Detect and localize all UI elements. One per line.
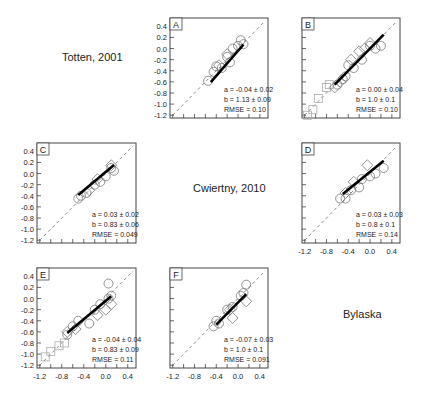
panel-e: 0.40.20.0-0.2-0.4-0.6-0.8-1.0-1.2-1.2-0.… [21, 268, 141, 381]
x-tick-label: -0.4 [342, 247, 355, 256]
y-tick-label: -0.2 [21, 181, 34, 190]
x-tick-label: -1.2 [298, 247, 311, 256]
circle-marker [242, 280, 251, 289]
y-tick-label: 0.2 [157, 33, 167, 42]
y-tick-label: -0.8 [21, 339, 34, 348]
fit-line [335, 35, 384, 85]
fit-stats: b = 1.0 ± 0.1 [224, 346, 263, 353]
y-tick-label: -0.8 [21, 214, 34, 223]
fit-stats: a = -0.07 ± 0.03 [224, 336, 273, 343]
circle-marker [376, 41, 385, 50]
panel-letter: A [173, 20, 179, 30]
scatter-panels: 0.40.20.0-0.2-0.4-0.6-0.8-1.0-1.2Aa = -0… [0, 0, 434, 395]
y-tick-label: -0.6 [21, 203, 34, 212]
y-tick-label: -0.2 [154, 56, 167, 65]
y-tick-label: -1.2 [21, 236, 34, 245]
circle-marker [85, 319, 94, 328]
y-tick-label: -0.4 [154, 67, 167, 76]
panel-letter: E [40, 270, 46, 280]
fit-stats: b = 1.0 ± 0.1 [356, 96, 395, 103]
y-tick-label: -1.0 [21, 350, 34, 359]
x-tick-label: -0.8 [320, 247, 333, 256]
panel-c: 0.40.20.0-0.2-0.4-0.6-0.8-1.0-1.2Ca = 0.… [21, 143, 139, 245]
x-tick-label: 0.4 [123, 372, 133, 381]
fit-stats: a = -0.04 ± 0.04 [92, 336, 141, 343]
x-tick-label: -0.8 [188, 372, 201, 381]
y-tick-label: 0.0 [157, 45, 167, 54]
fit-line [216, 294, 246, 325]
panel-letter: B [305, 20, 311, 30]
fit-stats: a = 0.03 ± 0.02 [92, 211, 139, 218]
panel-a: 0.40.20.0-0.2-0.4-0.6-0.8-1.0-1.2Aa = -0… [154, 18, 273, 120]
y-tick-label: -1.2 [21, 361, 34, 370]
x-tick-label: -0.4 [77, 372, 90, 381]
y-tick-label: 0.4 [24, 272, 34, 281]
diamond-marker [362, 160, 373, 171]
fit-stats: RMSE = 0.091 [224, 356, 270, 363]
y-tick-label: 0.0 [24, 170, 34, 179]
fit-stats: RMSE = 0.11 [92, 356, 133, 363]
fit-stats: RMSE = 0.049 [92, 231, 138, 238]
x-tick-label: 0.4 [255, 372, 265, 381]
y-tick-label: -0.2 [21, 306, 34, 315]
y-tick-label: 0.2 [24, 283, 34, 292]
y-tick-label: 0.4 [157, 22, 167, 31]
x-tick-label: 0.0 [365, 247, 375, 256]
x-tick-label: -0.8 [55, 372, 68, 381]
fit-stats: a = 0.03 ± 0.03 [356, 211, 403, 218]
y-tick-label: -0.4 [21, 192, 34, 201]
fit-stats: b = 0.8 ± 0.1 [356, 221, 395, 228]
y-tick-label: -0.8 [154, 89, 167, 98]
panel-f: -1.2-0.8-0.40.00.4Fa = -0.07 ± 0.03b = 1… [166, 268, 273, 381]
y-tick-label: -1.2 [154, 111, 167, 120]
x-tick-label: 0.4 [387, 247, 397, 256]
y-tick-label: -0.6 [154, 78, 167, 87]
circle-marker [212, 62, 221, 71]
y-tick-label: 0.0 [24, 295, 34, 304]
panel-letter: D [305, 145, 312, 155]
fit-stats: b = 1.13 ± 0.09 [224, 96, 271, 103]
circle-marker [336, 194, 345, 203]
fit-stats: a = -0.04 ± 0.02 [224, 86, 273, 93]
fit-stats: b = 0.83 ± 0.06 [92, 221, 139, 228]
x-tick-label: -0.4 [210, 372, 223, 381]
y-tick-label: -0.4 [21, 317, 34, 326]
x-tick-label: -1.2 [166, 372, 179, 381]
fit-stats: RMSE = 0.10 [356, 106, 398, 113]
circle-marker [104, 279, 113, 288]
fit-stats: b = 0.83 ± 0.09 [92, 346, 139, 353]
panel-b: Ba = 0.00 ± 0.04b = 1.0 ± 0.1RMSE = 0.10 [302, 18, 403, 119]
y-tick-label: -1.0 [21, 225, 34, 234]
y-tick-label: -0.6 [21, 328, 34, 337]
x-tick-label: 0.0 [233, 372, 243, 381]
diamond-marker [100, 304, 111, 315]
panel-d: -1.2-0.8-0.40.00.4Da = 0.03 ± 0.03b = 0.… [298, 143, 403, 256]
y-tick-label: -1.0 [154, 100, 167, 109]
fit-stats: RMSE = 0.10 [224, 106, 266, 113]
x-tick-label: 0.0 [101, 372, 111, 381]
fit-stats: a = 0.00 ± 0.04 [356, 86, 403, 93]
fit-stats: RMSE = 0.14 [356, 231, 398, 238]
x-tick-label: -1.2 [33, 372, 46, 381]
y-tick-label: 0.4 [24, 147, 34, 156]
panel-letter: C [40, 145, 47, 155]
panel-letter: F [173, 270, 179, 280]
y-tick-label: 0.2 [24, 158, 34, 167]
